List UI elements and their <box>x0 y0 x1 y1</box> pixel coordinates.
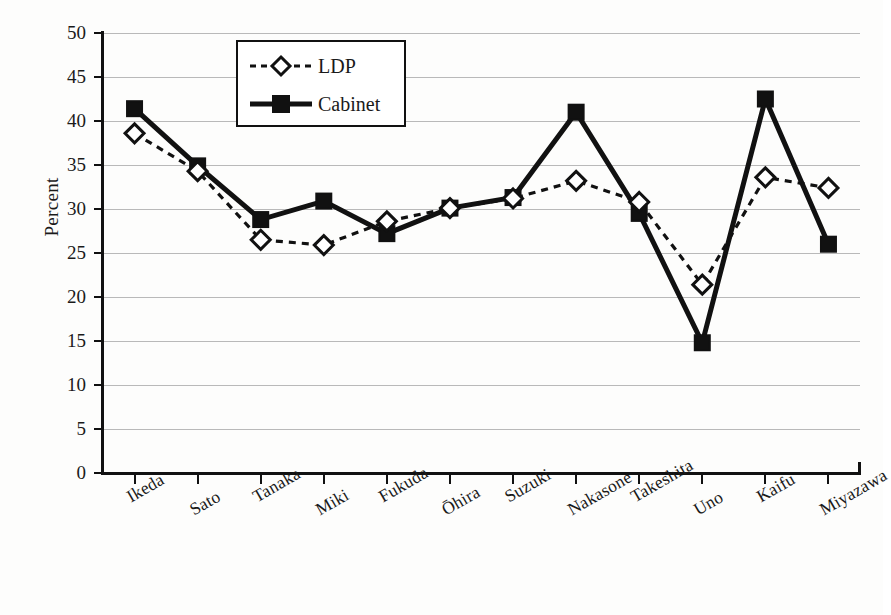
y-tick-label: 10 <box>34 375 86 394</box>
x-tick-mark <box>323 474 325 484</box>
y-tick-label: 40 <box>34 111 86 130</box>
y-tick-label: 0 <box>34 463 86 482</box>
x-axis-right-end-cap <box>858 462 861 475</box>
y-tick-label: 15 <box>34 331 86 350</box>
y-tick-label: 35 <box>34 155 86 174</box>
x-tick-mark <box>827 474 829 484</box>
gridline <box>103 77 860 78</box>
y-tick-label: 20 <box>34 287 86 306</box>
gridline <box>103 121 860 122</box>
gridline <box>103 33 860 34</box>
legend-label-ldp: LDP <box>318 55 356 78</box>
x-tick-label: Ōhira <box>438 482 484 521</box>
legend-swatch-dashed-diamond-icon <box>248 54 314 78</box>
x-tick-mark <box>575 474 577 484</box>
y-tick-label: 45 <box>34 67 86 86</box>
x-tick-label: Ikeda <box>123 469 168 507</box>
gridline <box>103 253 860 254</box>
x-tick-mark <box>701 474 703 484</box>
gridline <box>103 429 860 430</box>
y-tick-label: 30 <box>34 199 86 218</box>
x-tick-label: Uno <box>690 487 727 521</box>
legend-label-cabinet: Cabinet <box>318 93 380 116</box>
x-tick-label: Miki <box>312 485 353 521</box>
legend-swatch-solid-square-icon <box>248 92 314 116</box>
gridline <box>103 341 860 342</box>
gridline <box>103 297 860 298</box>
legend-item-cabinet: Cabinet <box>238 84 404 124</box>
y-axis-line <box>101 31 104 475</box>
gridline <box>103 165 860 166</box>
legend-item-ldp: LDP <box>238 46 404 86</box>
y-tick-label: 25 <box>34 243 86 262</box>
y-tick-label: 5 <box>34 419 86 438</box>
chart-legend: LDP Cabinet <box>236 40 406 127</box>
x-tick-label: Sato <box>186 486 224 520</box>
plot-area <box>103 33 860 473</box>
x-tick-mark <box>449 474 451 484</box>
x-tick-mark <box>197 474 199 484</box>
gridline <box>103 209 860 210</box>
y-tick-label: 50 <box>34 23 86 42</box>
gridline <box>103 385 860 386</box>
x-axis-line <box>101 472 861 475</box>
